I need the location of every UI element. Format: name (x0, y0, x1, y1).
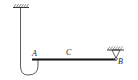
ceiling-support-left (13, 4, 29, 8)
mechanics-diagram: A C B (0, 0, 138, 80)
hanging-rod (21, 8, 39, 76)
label-a: A (31, 49, 37, 58)
label-b: B (118, 57, 123, 66)
label-c: C (66, 48, 72, 57)
